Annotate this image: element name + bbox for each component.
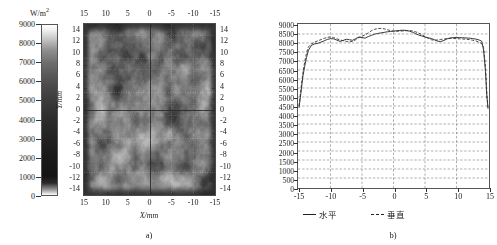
colorbar-tick (36, 158, 41, 159)
heatmap-y-label-left: -12 (62, 174, 80, 182)
colorbar-tick-label: 1000 (19, 172, 35, 181)
line-chart-svg (298, 24, 489, 188)
line-chart-y-tick (294, 153, 298, 154)
heatmap-y-tick-right (212, 99, 215, 100)
line-chart-y-tick-label: 9000 (279, 21, 294, 30)
colorbar-tick-label: 3000 (19, 134, 35, 143)
heatmap-y-label-right: -8 (220, 151, 227, 159)
heatmap-y-label-left: -10 (62, 163, 80, 171)
heatmap-y-tick-right (212, 65, 215, 66)
heatmap-y-label-right: -2 (220, 117, 227, 125)
heatmap-y-tick-left (84, 190, 87, 191)
heatmap-x-label-bottom: 10 (102, 199, 110, 207)
heatmap-y-label-right: -4 (220, 128, 227, 136)
line-chart-y-tick (294, 107, 298, 108)
heatmap-x-label-top: 10 (102, 10, 110, 18)
heatmap-x-label-bottom: -5 (168, 199, 175, 207)
heatmap-x-label-bottom: 0 (148, 199, 152, 207)
heatmap-y-label-right: -12 (220, 174, 231, 182)
line-chart-y-tick (294, 171, 298, 172)
legend-swatch-solid (303, 214, 316, 215)
line-chart-y-tick-label: 4000 (279, 112, 294, 121)
heatmap-y-label-right: 2 (220, 94, 224, 102)
gridlines-horizontal (298, 34, 489, 178)
line-chart-y-tick (294, 52, 298, 53)
heatmap-y-tick-right (212, 76, 215, 77)
colorbar-gradient (41, 24, 58, 196)
line-chart-y-tick-label: 8500 (279, 30, 294, 39)
line-chart-x-tick-label: 5 (424, 192, 428, 201)
line-chart-y-tick-label: 8000 (279, 39, 294, 48)
heatmap-y-label-left: -2 (62, 117, 80, 125)
line-chart-x-tick-label: 0 (393, 192, 397, 201)
line-chart-y-tick-label: 5000 (279, 93, 294, 102)
line-chart-y-tick (294, 189, 298, 190)
heatmap-x-label-bottom: -15 (210, 199, 221, 207)
colorbar-tick-label: 8000 (19, 39, 35, 48)
colorbar-tick-label: 2000 (19, 153, 35, 162)
heatmap-y-tick-left (84, 133, 87, 134)
heatmap-y-tick-left (84, 179, 87, 180)
heatmap-y-label-right: -14 (220, 185, 231, 193)
heatmap-x-label-top: 0 (148, 10, 152, 18)
heatmap-x-tick-top (129, 24, 130, 27)
colorbar-tick (36, 139, 41, 140)
heatmap-x-tick-top (151, 24, 152, 27)
heatmap-y-tick-left (84, 42, 87, 43)
line-chart-y-tick (294, 43, 298, 44)
colorbar-tick-label: 5000 (19, 96, 35, 105)
heatmap-y-label-left: 6 (62, 71, 80, 79)
colorbar-tick-label: 0 (31, 192, 35, 201)
colorbar-tick-label: 7000 (19, 58, 35, 67)
line-chart-x-tick-label: -15 (294, 192, 305, 201)
legend: 水平 垂直 (297, 207, 490, 221)
heatmap-y-tick-right (212, 111, 215, 112)
heatmap-y-label-left: -8 (62, 151, 80, 159)
colorbar-tick (36, 100, 41, 101)
heatmap-y-label-right: 0 (220, 106, 224, 114)
heatmap-x-tick-bottom (85, 192, 86, 195)
heatmap-y-label-right: -10 (220, 163, 231, 171)
heatmap-y-label-left: 0 (62, 106, 80, 114)
heatmap-y-tick-left (84, 145, 87, 146)
line-chart-y-tick (294, 116, 298, 117)
colorbar-tick-label: 4000 (19, 115, 35, 124)
heatmap-y-tick-right (212, 156, 215, 157)
line-chart-y-tick-label: 6500 (279, 66, 294, 75)
line-chart-y-tick (294, 162, 298, 163)
line-chart-y-tick (294, 143, 298, 144)
heatmap-x-tick-bottom (194, 192, 195, 195)
line-chart-y-tick-label: 5500 (279, 84, 294, 93)
legend-item-1: 垂直 (371, 208, 405, 220)
heatmap-y-tick-left (84, 54, 87, 55)
heatmap-y-label-right: 6 (220, 71, 224, 79)
line-chart-y-tick-label: 4500 (279, 103, 294, 112)
heatmap-x-label-top: 15 (80, 10, 88, 18)
legend-label-1: 垂直 (387, 208, 405, 220)
heatmap-y-tick-right (212, 54, 215, 55)
colorbar: 9000800070006000500040003000200010000 (41, 24, 58, 196)
heatmap-y-tick-right (212, 88, 215, 89)
line-chart-y-tick (294, 25, 298, 26)
heatmap-x-label-top: -15 (210, 10, 221, 18)
heatmap-x-label-bottom: -10 (188, 199, 199, 207)
line-chart-y-tick (294, 125, 298, 126)
colorbar-tick (36, 177, 41, 178)
line-chart-y-tick-label: 6000 (279, 75, 294, 84)
line-chart-y-tick (294, 61, 298, 62)
figure-root: W/m2 90008000700060005000400030002000100… (0, 0, 497, 245)
heatmap-y-label-right: -6 (220, 140, 227, 148)
heatmap-x-tick-bottom (151, 192, 152, 195)
colorbar-tick (36, 24, 41, 25)
heatmap-x-label-top: 5 (126, 10, 130, 18)
heatmap-y-tick-right (212, 145, 215, 146)
heatmap-y-label-left: -4 (62, 128, 80, 136)
heatmap-y-label-left: 2 (62, 94, 80, 102)
colorbar-unit-label: W/m2 (30, 7, 49, 18)
heatmap-x-label-bottom: 15 (80, 199, 88, 207)
heatmap-y-tick-left (84, 65, 87, 66)
heatmap-y-label-left: 8 (62, 60, 80, 68)
heatmap-y-label-right: 8 (220, 60, 224, 68)
heatmap-y-label-left: 14 (62, 26, 80, 34)
heatmap-crosshair-horizontal (84, 110, 215, 111)
